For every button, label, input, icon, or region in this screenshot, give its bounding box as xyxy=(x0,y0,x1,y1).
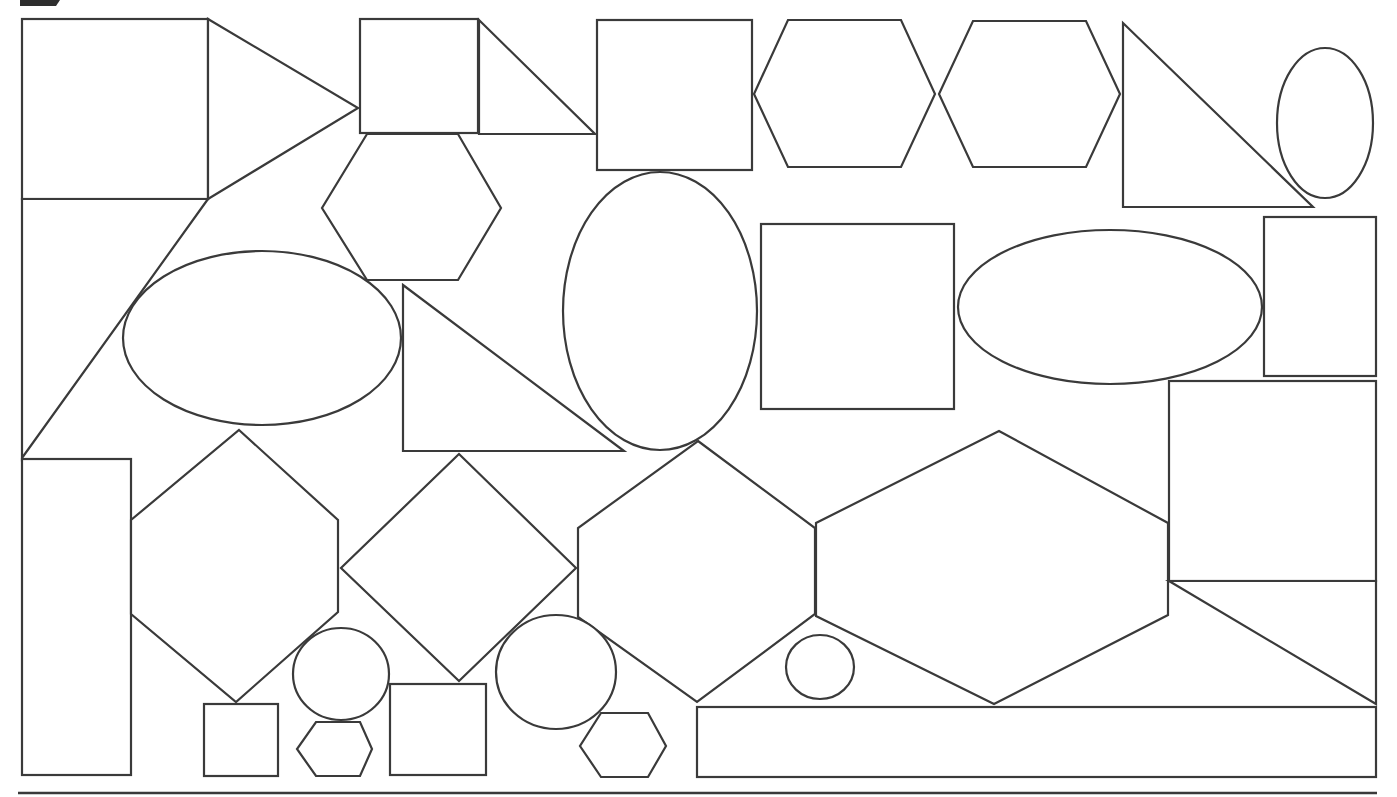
square-top-center xyxy=(597,20,752,170)
small-circle-bottom xyxy=(786,635,854,699)
hexagon-upper-left xyxy=(322,134,501,280)
tall-ellipse-center xyxy=(563,172,757,450)
long-rect-bottom xyxy=(697,707,1376,777)
right-triangle-bottom-right xyxy=(1169,581,1376,704)
small-hexagon-bottom-left xyxy=(297,722,372,776)
small-square-top xyxy=(360,19,478,133)
triangle-pointing-right xyxy=(208,19,358,199)
hexagon-top-2 xyxy=(939,21,1120,167)
wide-hexagon-right xyxy=(816,431,1168,704)
small-hexagon-bottom-center xyxy=(580,713,666,777)
circle-bottom-left xyxy=(293,628,389,720)
right-triangle-top xyxy=(479,20,595,134)
square-top-left xyxy=(22,19,208,199)
shapes-diagram xyxy=(0,0,1397,797)
hexagon-top-1 xyxy=(754,20,935,167)
ellipse-left xyxy=(123,251,401,425)
ellipse-top-right xyxy=(1277,48,1373,198)
tall-rect-bottom-left xyxy=(22,459,131,775)
square-right xyxy=(1169,381,1376,581)
small-square-bottom-left xyxy=(204,704,278,776)
square-bottom xyxy=(390,684,486,775)
tall-rect-right xyxy=(1264,217,1376,376)
header-tab xyxy=(20,0,60,6)
wide-ellipse-right xyxy=(958,230,1262,384)
shapes-layer xyxy=(22,19,1376,777)
circle-bottom-center xyxy=(496,615,616,729)
square-middle xyxy=(761,224,954,409)
